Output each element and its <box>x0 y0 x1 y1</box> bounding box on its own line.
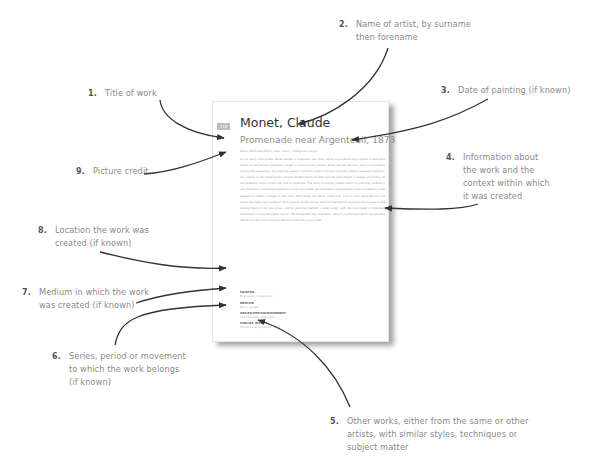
picture-credit: Musée Marmottan Monet, Paris, France / B… <box>240 150 318 153</box>
meta-value-series: Impressionism, Argenteuil <box>240 315 360 319</box>
callout-7-medium: 7. Medium in which the work was created … <box>22 286 149 312</box>
work-title: Promenade near Argenteuil, 1873 <box>240 134 395 145</box>
callout-9-picture-credit: 9. Picture credit <box>76 165 149 178</box>
callout-4-information: 4. Information about the work and the co… <box>446 151 550 203</box>
callout-1-title-of-work: 1. Title of work <box>88 87 157 100</box>
callout-8-location: 8. Location the work was created (if kno… <box>38 224 149 250</box>
book-page: 118 Monet, Claude Promenade near Argente… <box>212 101 389 342</box>
artist-name: Monet, Claude <box>240 115 330 130</box>
work-description: On his return from London Monet settled … <box>240 157 385 224</box>
meta-value-medium: Oil on canvas <box>240 305 360 309</box>
arrow-4 <box>385 204 478 209</box>
page-number-badge: 118 <box>217 123 230 130</box>
callout-6-series-period: 6. Series, period or movement to which t… <box>52 350 186 389</box>
callout-2-artist-name: 2. Name of artist, by surname then foren… <box>339 18 471 44</box>
callout-5-similar-works: 5. Other works, either from the same or … <box>330 415 528 454</box>
callout-3-date: 3. Date of painting (if known) <box>441 84 571 97</box>
meta-value-painted: Boulevard, nr Argenteuil <box>240 294 360 298</box>
arrow-8 <box>100 252 226 268</box>
meta-value-similar-works: The Seine at Argenteuil, 1873 <box>240 325 360 329</box>
metadata-list: PAINTED Boulevard, nr Argenteuil MEDIUM … <box>240 288 360 329</box>
